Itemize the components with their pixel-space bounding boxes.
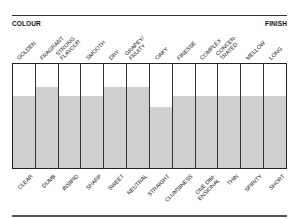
- scale-fill: [36, 87, 58, 168]
- scale-fill: [59, 96, 81, 168]
- scale-column: [173, 64, 196, 168]
- top-descriptor-label: GRAPEY/ FRUITY: [123, 35, 149, 61]
- top-descriptor-label: OAKY: [153, 46, 168, 61]
- scale-chart: [12, 63, 287, 169]
- bottom-descriptor-label: SHORT: [268, 173, 286, 191]
- scale-fill: [196, 96, 218, 168]
- scale-fill: [264, 96, 286, 168]
- scale-column: [104, 64, 127, 168]
- scale-column: [81, 64, 104, 168]
- scale-column: [36, 64, 59, 168]
- bottom-rule: [12, 215, 287, 217]
- top-descriptor-label: MELLOW: [245, 40, 266, 61]
- scale-column: [13, 64, 36, 168]
- scale-fill: [13, 96, 35, 168]
- scale-column: [241, 64, 264, 168]
- colour-label: COLOUR: [12, 20, 41, 27]
- bottom-descriptor-label: SPIRITY: [243, 173, 263, 193]
- bottom-descriptor-label: INSIPID: [61, 173, 80, 192]
- bottom-descriptor-label: NEUTRAL: [125, 173, 148, 196]
- top-descriptor-label: GOLDEN: [16, 40, 37, 61]
- bottom-descriptor-label: DUMB: [40, 173, 56, 189]
- top-descriptor-label: DRY: [107, 48, 120, 61]
- bottom-descriptor-label: CLEAR: [16, 173, 33, 190]
- scale-column: [59, 64, 82, 168]
- scale-fill: [218, 96, 240, 168]
- scale-column: [264, 64, 286, 168]
- scale-column: [196, 64, 219, 168]
- bottom-descriptor-label: SWEET: [107, 173, 125, 191]
- bottom-descriptor-label: THIN: [226, 173, 239, 186]
- bottom-descriptor-label: ONE DIM- ENSIONAL: [193, 173, 221, 201]
- scale-fill: [81, 96, 103, 168]
- bottom-descriptor-label: SHARP: [84, 173, 102, 191]
- scale-column: [218, 64, 241, 168]
- top-descriptor-label: FINESSE: [176, 40, 197, 61]
- scale-fill: [173, 96, 195, 168]
- scale-fill: [104, 87, 126, 168]
- finish-label: FINISH: [265, 20, 287, 27]
- scale-column: [150, 64, 173, 168]
- scale-fill: [127, 87, 149, 168]
- top-rule: [12, 15, 287, 16]
- scale-column: [127, 64, 150, 168]
- top-descriptor-label: LONG: [268, 46, 283, 61]
- scale-fill: [241, 96, 263, 168]
- top-descriptor-label: SMOOTH: [85, 39, 107, 61]
- scale-fill: [150, 107, 172, 168]
